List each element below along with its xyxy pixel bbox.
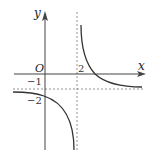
x-axis-label: x bbox=[138, 60, 145, 72]
curve-branch-upper-right bbox=[81, 25, 142, 87]
y-axis-label: y bbox=[34, 7, 41, 19]
origin-label: O bbox=[35, 63, 44, 74]
y-tick-label-neg1: −1 bbox=[27, 77, 42, 87]
y-tick-label-neg2: −2 bbox=[27, 96, 42, 106]
curve-branch-lower-left bbox=[13, 92, 74, 150]
function-graph: y x O 2 −1 −2 bbox=[0, 0, 152, 159]
graph-canvas bbox=[0, 0, 152, 159]
x-tick-label-2: 2 bbox=[78, 64, 84, 74]
